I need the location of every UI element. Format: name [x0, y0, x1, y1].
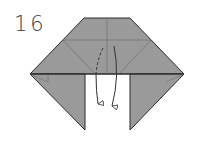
origami-diagram [0, 0, 198, 142]
left-flap [30, 74, 85, 130]
right-flap [130, 74, 184, 130]
valley-fold-arrow-tail [96, 74, 98, 104]
